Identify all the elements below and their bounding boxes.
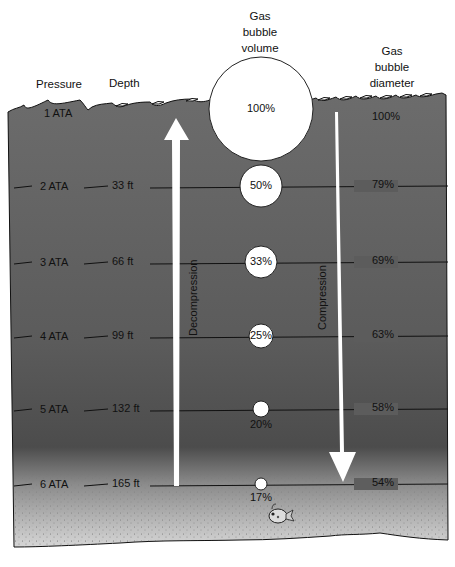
- depth-label: 99 ft: [112, 329, 133, 342]
- diameter-label: 79%: [372, 178, 394, 191]
- compression-label: Compression: [316, 265, 328, 330]
- diameter-header-line: diameter: [361, 75, 423, 91]
- volume-header: Gas bubble volume: [232, 8, 288, 56]
- volume-label: 100%: [235, 102, 287, 115]
- depth-label: 33 ft: [112, 179, 133, 192]
- depth-label: 66 ft: [112, 255, 133, 268]
- volume-header-line: bubble: [232, 24, 288, 40]
- pressure-label: 3 ATA: [40, 256, 68, 269]
- pressure-header: Pressure: [36, 76, 82, 92]
- gas-bubble: [253, 401, 269, 417]
- pressure-label: 5 ATA: [40, 403, 68, 416]
- pressure-label: 2 ATA: [40, 180, 68, 193]
- volume-label: 50%: [235, 179, 287, 192]
- volume-header-line: Gas: [232, 8, 288, 24]
- pressure-label: 4 ATA: [40, 330, 68, 343]
- depth-header: Depth: [109, 75, 140, 91]
- volume-label: 25%: [235, 329, 287, 342]
- decompression-label: Decompression: [187, 260, 199, 336]
- diameter-label: 54%: [372, 476, 394, 489]
- pressure-label: 6 ATA: [40, 478, 68, 491]
- volume-label: 33%: [235, 255, 287, 268]
- diameter-header: Gas bubble diameter: [361, 43, 423, 91]
- depth-label: 165 ft: [112, 477, 140, 490]
- volume-header-line: volume: [232, 40, 288, 56]
- volume-label: 20%: [235, 418, 287, 431]
- diameter-header-line: bubble: [361, 59, 423, 75]
- volume-label: 17%: [235, 491, 287, 504]
- diameter-label: 63%: [372, 328, 394, 341]
- depth-label: 132 ft: [112, 402, 140, 415]
- diameter-label: 100%: [372, 110, 400, 123]
- diagram-canvas: Pressure Depth Gas bubble volume Gas bub…: [0, 0, 455, 567]
- gas-bubble: [255, 478, 267, 490]
- diameter-header-line: Gas: [361, 43, 423, 59]
- diameter-label: 58%: [372, 401, 394, 414]
- diameter-label: 69%: [372, 254, 394, 267]
- pressure-label: 1 ATA: [44, 107, 72, 120]
